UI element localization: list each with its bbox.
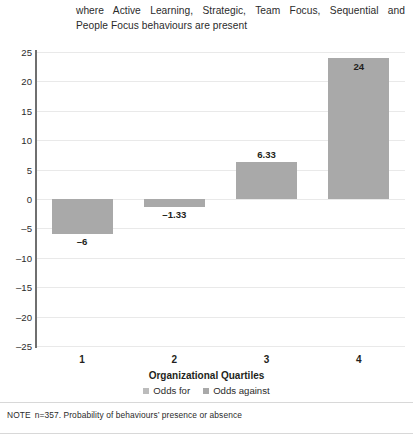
x-axis-tick-label: 4 <box>356 354 362 365</box>
caption-line-2: People Focus behaviours are present <box>76 19 405 34</box>
bar-value-label: –6 <box>77 236 88 247</box>
bar[interactable] <box>52 199 113 234</box>
y-axis-tick-label: 15 <box>2 105 32 116</box>
x-axis-tick-label: 1 <box>79 354 85 365</box>
legend-swatch-icon <box>203 388 209 394</box>
chart-note: NOTEn=357. Probability of behaviours’ pr… <box>7 410 242 420</box>
bar-chart: 2520151050–5–10–15–20–25 –6–1.336.3324 1… <box>0 44 413 374</box>
y-axis-tick-label: 5 <box>2 164 32 175</box>
y-axis-ticks: 2520151050–5–10–15–20–25 <box>0 52 32 346</box>
y-axis-tick-label: 20 <box>2 76 32 87</box>
bar[interactable] <box>144 199 205 207</box>
y-axis-tick-label: 10 <box>2 135 32 146</box>
legend-swatch-icon <box>143 388 149 394</box>
legend-item[interactable]: Odds for <box>143 385 190 396</box>
bar-value-label: 6.33 <box>257 149 276 160</box>
y-axis-tick-label: –10 <box>2 252 32 263</box>
legend-item[interactable]: Odds against <box>203 385 270 396</box>
chart-caption: where Active Learning, Strategic, Team F… <box>76 4 405 33</box>
y-axis-tick-label: 0 <box>2 194 32 205</box>
legend-label: Odds for <box>153 385 190 396</box>
bar-value-label: –1.33 <box>162 209 186 220</box>
y-axis-tick-label: –15 <box>2 282 32 293</box>
y-axis-tick-label: –5 <box>2 223 32 234</box>
y-axis-tick-label: –25 <box>2 341 32 352</box>
caption-line-1: where Active Learning, Strategic, Team F… <box>76 4 405 19</box>
x-axis-tick-label: 2 <box>172 354 178 365</box>
bars-layer: –6–1.336.3324 <box>36 52 405 346</box>
note-divider-top <box>0 402 413 403</box>
y-axis-tick-label: 25 <box>2 47 32 58</box>
bar[interactable] <box>328 58 389 199</box>
y-axis-tick-label: –20 <box>2 311 32 322</box>
x-axis-tick-label: 3 <box>264 354 270 365</box>
bar-value-label: 24 <box>354 61 365 72</box>
legend-label: Odds against <box>213 385 270 396</box>
x-axis-title: Organizational Quartiles <box>0 370 413 381</box>
note-divider-bottom <box>0 433 413 434</box>
chart-legend: Odds forOdds against <box>0 385 413 396</box>
note-keyword: NOTE <box>7 410 31 420</box>
note-text: n=357. Probability of behaviours’ presen… <box>35 410 242 420</box>
bar[interactable] <box>236 162 297 199</box>
gridline <box>36 346 405 347</box>
